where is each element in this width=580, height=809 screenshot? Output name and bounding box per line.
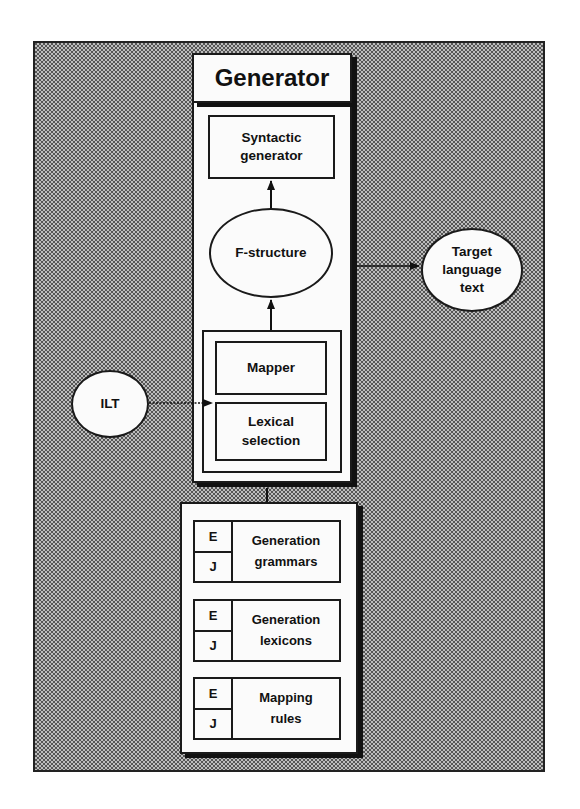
f-structure-label: F-structure (235, 244, 306, 262)
ilt-node: ILT (71, 370, 149, 438)
kb-generation-lexicons: E J Generation lexicons (193, 599, 341, 662)
syntactic-generator-box: Syntactic generator (208, 115, 335, 179)
kb-lang-japanese: J (195, 552, 233, 582)
kb-lang-japanese: J (195, 631, 233, 661)
kb-lang-english: E (195, 601, 233, 631)
f-structure-node: F-structure (209, 208, 333, 298)
generator-title-box: Generator (192, 53, 352, 103)
ilt-label: ILT (100, 395, 119, 413)
mapper-box: Mapper (215, 341, 327, 395)
target-language-text-node: Target language text (421, 228, 523, 312)
kb-name: Mapping rules (233, 679, 339, 738)
kb-mapping-rules: E J Mapping rules (193, 677, 341, 740)
kb-name: Generation grammars (233, 522, 339, 581)
lexical-selection-box: Lexical selection (215, 402, 327, 461)
target-language-text-label: Target language text (442, 243, 501, 298)
kb-lang-english: E (195, 522, 233, 552)
mapper-label: Mapper (247, 359, 295, 377)
kb-generation-grammars: E J Generation grammars (193, 520, 341, 583)
generator-title: Generator (215, 62, 330, 94)
kb-lang-english: E (195, 679, 233, 709)
lexical-selection-label: Lexical selection (242, 413, 301, 449)
syntactic-generator-label: Syntactic generator (240, 129, 302, 165)
diagram-canvas: Generator Syntactic generator F-structur… (0, 0, 580, 809)
kb-name: Generation lexicons (233, 601, 339, 660)
kb-lang-japanese: J (195, 709, 233, 739)
